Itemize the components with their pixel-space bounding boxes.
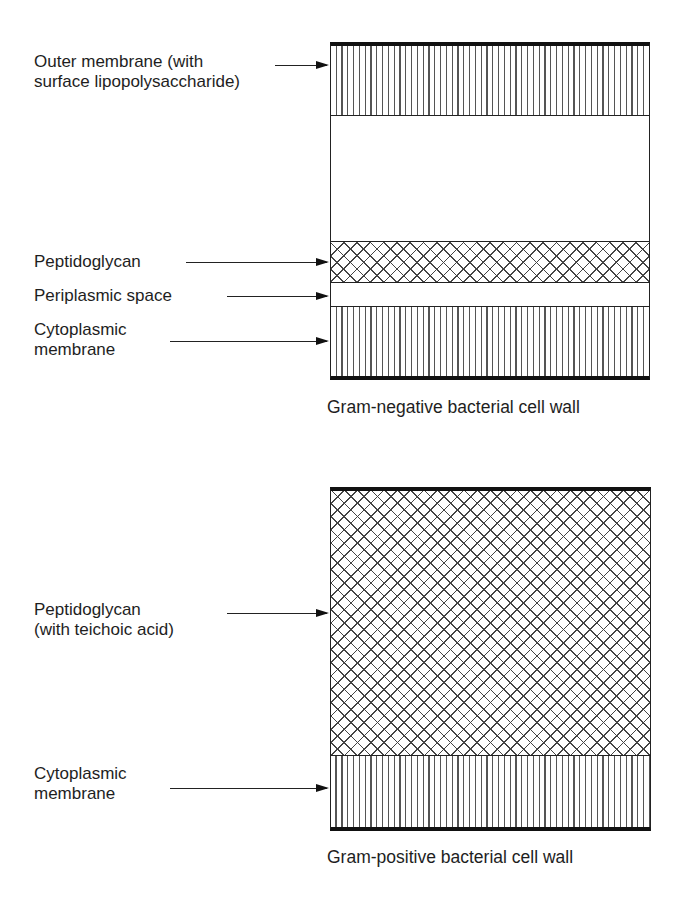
- outer-membrane-layer: [330, 42, 650, 116]
- arrow-outer-membrane: [275, 65, 327, 66]
- label-peptidoglycan-positive: Peptidoglycan (with teichoic acid): [34, 600, 174, 640]
- periplasmic-space-layer: [330, 283, 650, 307]
- label-peptidoglycan-negative: Peptidoglycan: [34, 252, 141, 272]
- arrow-cytoplasmic-membrane-negative: [170, 341, 327, 342]
- caption-gram-positive: Gram-positive bacterial cell wall: [327, 847, 573, 867]
- peptidoglycan-layer-positive: [330, 487, 651, 756]
- arrow-cytoplasmic-membrane-positive: [170, 788, 327, 789]
- outer-space-layer: [330, 115, 650, 242]
- label-cytoplasmic-membrane-negative: Cytoplasmic membrane: [34, 320, 127, 360]
- arrow-periplasmic-space: [227, 296, 327, 297]
- cytoplasmic-membrane-layer-negative: [330, 306, 650, 380]
- caption-gram-negative: Gram-negative bacterial cell wall: [327, 397, 580, 417]
- cytoplasmic-membrane-layer-positive: [330, 756, 651, 831]
- label-periplasmic-space: Periplasmic space: [34, 286, 172, 306]
- arrow-peptidoglycan-positive: [227, 613, 327, 614]
- label-outer-membrane: Outer membrane (with surface lipopolysac…: [34, 52, 240, 92]
- peptidoglycan-layer-negative: [330, 241, 650, 283]
- arrow-peptidoglycan-negative: [186, 262, 327, 263]
- label-cytoplasmic-membrane-positive: Cytoplasmic membrane: [34, 764, 127, 804]
